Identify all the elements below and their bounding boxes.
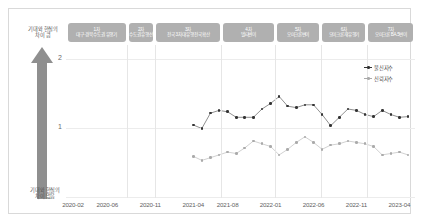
data-point [243,116,246,119]
y-gridline [66,59,415,60]
x-axis-tick-label: 2020-11 [130,201,170,208]
legend-label: 신뢰지수 [374,75,393,82]
y-axis-tick-label: 2 [50,54,62,61]
data-point [235,116,238,119]
phase-pill[interactable]: 5차오미크론변이 [277,23,319,42]
phase-pill-label: 델타변이 [241,32,256,37]
legend-dot [367,77,370,80]
x-axis-tick-label: 2020-06 [87,201,127,208]
arrow-top-label: 기대와 현실의 차이 큼 [15,26,71,39]
chart-screenshot: 기대와 현실의 차이 큼 기대와 현실의 차이 없음 1차대구·경북 수도권 유… [0,0,421,224]
data-point [192,155,195,158]
phase-divider-gridline [275,45,276,198]
data-point [312,104,315,107]
x-axis-line [66,197,415,198]
series-line [193,137,408,161]
x-axis-tick-label: 2022-06 [294,201,334,208]
data-point [192,124,195,127]
data-point [226,110,229,113]
data-point [381,109,384,112]
data-point [235,152,238,155]
phase-pill[interactable]: 3차전국 3차 대유행 전국확산 [156,23,219,42]
data-point [201,127,204,130]
data-point [355,109,358,112]
data-point [252,116,255,119]
data-point [381,154,384,157]
data-point [252,140,255,143]
data-point [338,142,341,145]
legend-marker-icon [363,77,374,80]
data-point [338,116,341,119]
data-point [269,102,272,105]
data-point [209,156,212,159]
data-point [372,115,375,118]
phase-pill-label: 전국 3차 대유행 전국확산 [167,32,209,37]
x-axis-tick-label: 2023-04 [379,201,419,208]
data-point [295,106,298,109]
data-point [286,148,289,151]
data-point [372,145,375,148]
phase-pill-row: 1차대구·경북 수도권 유행기2차수도권 유행선3차전국 3차 대유행 전국확산… [66,23,415,43]
data-point [390,152,393,155]
x-axis-tick-label: 2022-01 [251,201,291,208]
phase-pill[interactable]: 2차수도권 유행선 [129,23,154,42]
data-point [329,124,332,127]
x-axis-tick-label: 2021-08 [208,201,248,208]
legend-dot [367,66,370,69]
x-axis-tick-label: 2022-11 [336,201,376,208]
phase-pill[interactable]: 1차대구·경북 수도권 유행기 [68,23,126,42]
data-point [390,113,393,116]
y-gridline [66,128,415,129]
phase-pill-label: 대구·경북 수도권 유행기 [76,32,116,37]
legend-item[interactable]: 불신지수 [363,63,393,72]
phase-pill-label: 수도권 유행선 [129,32,152,37]
data-point [269,145,272,148]
data-point [355,141,358,144]
phase-pill[interactable]: 4차델타변이 [223,23,274,42]
phase-divider-gridline [127,45,128,198]
legend-label: 불신지수 [374,64,393,71]
y-axis-tick-label: 1 [50,123,62,130]
phase-pill-label: 오미크론 재유행기 [329,32,360,37]
legend-item[interactable]: 신뢰지수 [363,74,393,83]
data-point [201,159,204,162]
phase-divider-gridline [321,45,322,198]
phase-divider-gridline [221,45,222,198]
phase-pill-label: 오미크론 BA.5변이 [375,32,407,37]
data-point [398,116,401,119]
phase-pill-label: 오미크론변이 [287,32,309,37]
phase-pill[interactable]: 7차오미크론 BA.5변이 [368,23,413,42]
legend-marker-icon [363,66,374,69]
phase-divider-gridline [155,45,156,198]
data-point [312,141,315,144]
phase-pill[interactable]: 6차오미크론 재유행기 [322,23,365,42]
chart-frame: 기대와 현실의 차이 큼 기대와 현실의 차이 없음 1차대구·경북 수도권 유… [8,8,411,214]
data-point [295,141,298,144]
arrow-shaft [37,61,47,199]
legend: 불신지수신뢰지수 [363,63,393,85]
